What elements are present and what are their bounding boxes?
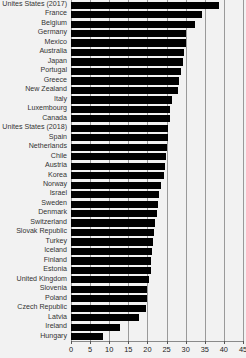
y-axis-label: Japan xyxy=(48,57,67,66)
y-axis-label: Latvia xyxy=(48,313,67,322)
bar xyxy=(71,11,202,18)
y-axis-label: Mexico xyxy=(45,38,67,47)
x-tick-mark xyxy=(71,341,72,344)
y-axis-label: Spain xyxy=(49,133,67,142)
bar xyxy=(71,324,120,331)
bar xyxy=(71,172,164,179)
bar xyxy=(71,229,154,236)
y-axis-label: Hungary xyxy=(40,332,67,341)
x-tick-label: 5 xyxy=(88,345,92,354)
y-axis-label: Austria xyxy=(45,161,67,170)
y-axis-label: Portugal xyxy=(41,66,67,75)
y-axis-label: Germany xyxy=(38,28,67,37)
bar-row xyxy=(71,313,243,322)
y-axis-label: Korea xyxy=(48,171,67,180)
bar-row xyxy=(71,208,243,217)
bar xyxy=(71,201,158,208)
y-axis-label: Denmark xyxy=(38,208,67,217)
y-axis-label: Estonia xyxy=(43,265,67,274)
bar xyxy=(71,305,146,312)
bar xyxy=(71,238,153,245)
bar xyxy=(71,333,103,340)
bar-chart: Unites States (2017)FranceBelgiumGermany… xyxy=(0,0,246,358)
x-tick-mark xyxy=(167,341,168,344)
bar xyxy=(71,267,151,274)
bar xyxy=(71,106,170,113)
x-tick-mark xyxy=(186,341,187,344)
bar xyxy=(71,49,184,56)
x-axis: 051015202530354045 xyxy=(71,341,243,358)
bar xyxy=(71,21,195,28)
bar xyxy=(71,248,152,255)
bar-row xyxy=(71,114,243,123)
y-axis-label: Australia xyxy=(39,47,67,56)
bar xyxy=(71,191,159,198)
bar-row xyxy=(71,123,243,132)
bar xyxy=(71,276,149,283)
x-tick-label: 20 xyxy=(143,345,151,354)
bar xyxy=(71,68,181,75)
y-axis-label: Slovenia xyxy=(40,284,67,293)
bar-row xyxy=(71,284,243,293)
y-axis-label: Italy xyxy=(54,95,67,104)
y-axis-label: New Zealand xyxy=(25,85,67,94)
y-axis-label: France xyxy=(45,9,67,18)
bar-row xyxy=(71,189,243,198)
bar-row xyxy=(71,265,243,274)
y-axis-label: Turkey xyxy=(46,237,67,246)
y-axis-label: United Kingdom xyxy=(17,275,67,284)
bar xyxy=(71,39,186,46)
x-tick-mark xyxy=(147,341,148,344)
x-tick-mark xyxy=(205,341,206,344)
y-axis-label: Iceland xyxy=(44,246,67,255)
bar xyxy=(71,96,172,103)
y-axis-label: Chile xyxy=(51,152,67,161)
bar xyxy=(71,257,151,264)
y-axis-label: Czech Republic xyxy=(17,303,67,312)
bar-row xyxy=(71,57,243,66)
bar-row xyxy=(71,9,243,18)
bar-row xyxy=(71,161,243,170)
bar xyxy=(71,314,139,321)
bar-row xyxy=(71,76,243,85)
bar xyxy=(71,58,183,65)
bar-row xyxy=(71,246,243,255)
x-tick-label: 15 xyxy=(124,345,132,354)
bar xyxy=(71,30,186,37)
x-tick-mark xyxy=(224,341,225,344)
y-axis-label: Slovak Republic xyxy=(16,227,67,236)
bar-row xyxy=(71,85,243,94)
bar-row xyxy=(71,303,243,312)
y-axis-label: Canada xyxy=(42,114,67,123)
bar xyxy=(71,144,167,151)
bar-row xyxy=(71,133,243,142)
bar-row xyxy=(71,180,243,189)
bar xyxy=(71,182,161,189)
x-tick-mark xyxy=(128,341,129,344)
y-axis-label: Greece xyxy=(44,76,67,85)
bar-row xyxy=(71,237,243,246)
bar-row xyxy=(71,275,243,284)
bar-row xyxy=(71,171,243,180)
y-axis-label: Switzerland xyxy=(30,218,67,227)
bar xyxy=(71,210,157,217)
y-axis-label: Norway xyxy=(43,180,67,189)
y-axis-label: Poland xyxy=(45,294,67,303)
bar xyxy=(71,2,219,9)
bar-row xyxy=(71,322,243,331)
x-tick-mark xyxy=(243,341,244,344)
gridline-45 xyxy=(243,0,244,341)
x-tick-label: 30 xyxy=(182,345,190,354)
bar xyxy=(71,295,147,302)
bar-row xyxy=(71,38,243,47)
y-axis-label: Ireland xyxy=(45,322,67,331)
y-axis-label: Sweden xyxy=(41,199,67,208)
bar-row xyxy=(71,256,243,265)
x-tick-label: 10 xyxy=(105,345,113,354)
bar-row xyxy=(71,47,243,56)
y-axis-label: Unites States (2018) xyxy=(2,123,67,132)
x-tick-mark xyxy=(90,341,91,344)
bar-row xyxy=(71,28,243,37)
bar xyxy=(71,219,155,226)
plot-area xyxy=(71,0,243,341)
